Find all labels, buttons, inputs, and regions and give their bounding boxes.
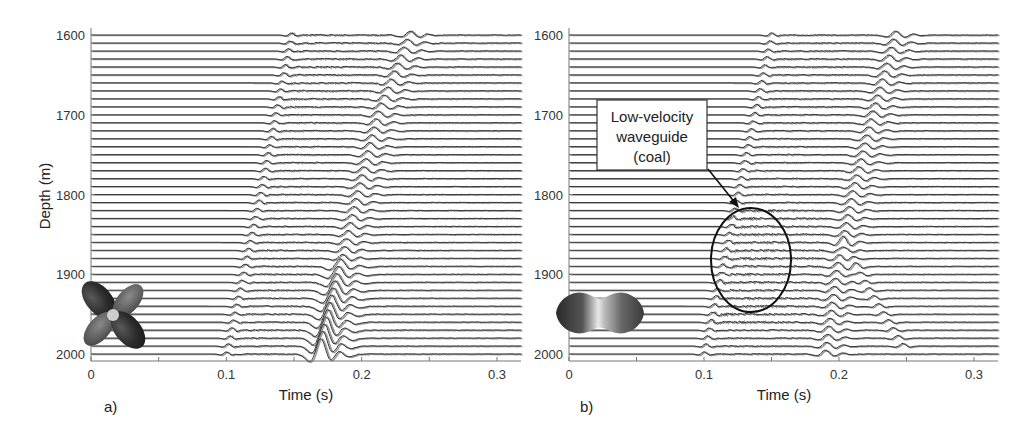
waveguide-callout: Low-velocity waveguide (coal)	[597, 100, 739, 208]
figure: 00.10.20.316001700180019002000 a) Time (…	[0, 0, 1029, 432]
y-tick-label: 2000	[56, 347, 85, 362]
y-tick-label: 1600	[534, 28, 563, 43]
axes: 00.10.20.316001700180019002000	[534, 28, 998, 382]
x-tick-label: 0.3	[965, 367, 983, 382]
x-axis-label-a: Time (s)	[279, 386, 333, 403]
y-tick-label: 1900	[56, 267, 85, 282]
y-tick-label: 1600	[56, 28, 85, 43]
x-tick-label: 0.2	[830, 367, 848, 382]
y-tick-label: 1900	[534, 267, 563, 282]
x-tick-label: 0	[565, 367, 572, 382]
x-tick-label: 0.1	[217, 367, 235, 382]
y-tick-label: 1700	[56, 108, 85, 123]
panel-a: 00.10.20.316001700180019002000 a) Time (…	[36, 28, 523, 415]
x-tick-label: 0.1	[695, 367, 713, 382]
two-lobe-radiation-pattern-icon	[556, 293, 644, 334]
x-tick-label: 0	[87, 367, 94, 382]
y-axis-label: Depth (m)	[36, 163, 53, 230]
seismic-traces	[91, 31, 523, 362]
panel-label-b: b)	[580, 398, 593, 415]
y-tick-label: 1800	[56, 188, 85, 203]
arrow-head-icon	[729, 197, 739, 208]
callout-line-1: Low-velocity	[611, 108, 694, 125]
y-tick-label: 1800	[534, 188, 563, 203]
panel-b: 00.10.20.316001700180019002000 b) Time (…	[534, 28, 999, 415]
callout-line-2: waveguide	[615, 128, 688, 145]
panel-label-a: a)	[104, 398, 117, 415]
x-tick-label: 0.3	[488, 367, 506, 382]
x-axis-label-b: Time (s)	[757, 386, 811, 403]
x-tick-label: 0.2	[353, 367, 371, 382]
y-tick-label: 1700	[534, 108, 563, 123]
y-tick-label: 2000	[534, 347, 563, 362]
callout-line-3: (coal)	[633, 148, 671, 165]
